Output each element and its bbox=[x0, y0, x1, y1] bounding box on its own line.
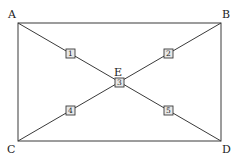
marker-2: 2 bbox=[164, 49, 173, 58]
marker-1-label: 1 bbox=[68, 49, 73, 58]
vertex-label-b: B bbox=[222, 8, 230, 21]
marker-3-label: 3 bbox=[117, 78, 122, 87]
marker-4-label: 4 bbox=[68, 106, 73, 115]
marker-5-label: 5 bbox=[166, 106, 171, 115]
marker-5: 5 bbox=[164, 106, 173, 115]
diagram-canvas: A B C D E 1 2 3 4 5 bbox=[0, 0, 238, 162]
marker-4: 4 bbox=[66, 106, 75, 115]
marker-3: 3 bbox=[115, 78, 124, 87]
vertex-label-a: A bbox=[7, 8, 17, 21]
vertex-label-d: D bbox=[222, 143, 231, 156]
marker-1: 1 bbox=[66, 49, 75, 58]
vertex-label-e: E bbox=[114, 66, 122, 79]
vertex-label-c: C bbox=[7, 143, 15, 156]
marker-2-label: 2 bbox=[166, 49, 171, 58]
